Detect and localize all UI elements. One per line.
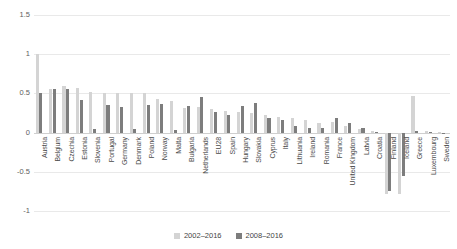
- bar: [331, 122, 334, 133]
- y-axis-tick-label: 1: [0, 50, 30, 58]
- bar: [80, 100, 83, 133]
- bar: [375, 132, 378, 133]
- x-axis-label-slot: Slovakia: [249, 135, 262, 209]
- x-axis-label-slot: Germany: [115, 135, 128, 209]
- bar: [291, 118, 294, 132]
- legend-swatch: [236, 233, 242, 239]
- bar: [250, 113, 253, 133]
- x-axis-label-slot: Croatia: [369, 135, 382, 209]
- bar: [214, 112, 217, 132]
- bar: [130, 93, 133, 132]
- legend-item[interactable]: 2002–2016: [174, 231, 222, 240]
- y-axis-labels: 1.510.50-0.5-1: [0, 15, 34, 211]
- bar: [36, 54, 39, 132]
- bar: [76, 88, 79, 133]
- legend-label: 2002–2016: [184, 231, 222, 240]
- bar: [183, 108, 186, 133]
- bar: [170, 101, 173, 132]
- x-axis-labels: AustriaBelgiumCzechiaEstoniaSloveniaPort…: [34, 135, 450, 209]
- x-axis-label-slot: Bulgaria: [182, 135, 195, 209]
- x-axis-label-slot: Norway: [155, 135, 168, 209]
- bar: [237, 112, 240, 132]
- bar: [277, 117, 280, 133]
- bar: [53, 89, 56, 132]
- bar: [344, 126, 347, 133]
- bar: [304, 120, 307, 133]
- x-axis-label-slot: Slovenia: [88, 135, 101, 209]
- bar: [49, 89, 52, 133]
- bar: [227, 115, 230, 133]
- x-axis-tick-label: Sweden: [443, 137, 450, 162]
- y-axis-tick-label: -1: [0, 207, 30, 215]
- bar: [66, 89, 69, 133]
- y-axis-tick-label: 0.5: [0, 89, 30, 97]
- y-axis-tick-label: -0.5: [0, 168, 30, 176]
- bar: [411, 96, 414, 133]
- bar: [116, 93, 119, 133]
- x-axis-label-slot: France: [329, 135, 342, 209]
- bar: [438, 132, 441, 133]
- gridline: [34, 211, 450, 212]
- legend-item[interactable]: 2008–2016: [236, 231, 284, 240]
- y-axis-tick-label: 0: [0, 129, 30, 137]
- x-axis-label-slot: Hungary: [235, 135, 248, 209]
- bar: [160, 104, 163, 132]
- bar: [308, 128, 311, 133]
- bar: [267, 118, 270, 132]
- y-axis-tick-label: 1.5: [0, 11, 30, 19]
- x-axis-label-slot: Luxembourg: [423, 135, 436, 209]
- bar: [120, 107, 123, 133]
- x-axis-label-slot: Finland: [383, 135, 396, 209]
- x-axis-label-slot: Netherlands: [195, 135, 208, 209]
- bar: [133, 129, 136, 132]
- x-axis-label-slot: Estonia: [74, 135, 87, 209]
- bar: [415, 131, 418, 133]
- chart-legend: 2002–20162008–2016: [0, 231, 457, 240]
- bar: [174, 130, 177, 132]
- x-axis-label-slot: Italy: [276, 135, 289, 209]
- bar: [335, 118, 338, 133]
- bar: [156, 99, 159, 133]
- x-axis-label-slot: Austria: [34, 135, 47, 209]
- bar: [264, 115, 267, 132]
- bar: [147, 105, 150, 132]
- x-axis-label-slot: Czechia: [61, 135, 74, 209]
- bar: [241, 106, 244, 133]
- bar: [210, 109, 213, 133]
- bar: [143, 93, 146, 132]
- bar: [254, 103, 257, 133]
- x-axis-label-slot: United Kingdom: [343, 135, 356, 209]
- bar: [197, 107, 200, 133]
- x-axis-label-slot: Greece: [410, 135, 423, 209]
- x-axis-label-slot: Denmark: [128, 135, 141, 209]
- x-axis-label-slot: Portugal: [101, 135, 114, 209]
- bar: [187, 106, 190, 133]
- x-axis-label-slot: Poland: [141, 135, 154, 209]
- x-axis-label-slot: Iceland: [396, 135, 409, 209]
- x-axis-label-slot: Belgium: [47, 135, 60, 209]
- x-axis-label-slot: Malta: [168, 135, 181, 209]
- bar: [294, 126, 297, 132]
- bar: [361, 128, 364, 133]
- legend-swatch: [174, 233, 180, 239]
- bar: [224, 111, 227, 132]
- bar: [317, 123, 320, 132]
- bar: [429, 132, 432, 133]
- bar: [62, 86, 65, 133]
- bar: [425, 131, 428, 133]
- x-axis-label-slot: Sweden: [437, 135, 450, 209]
- bar: [200, 97, 203, 133]
- bar-chart: 1.510.50-0.5-1 AustriaBelgiumCzechiaEsto…: [0, 0, 457, 249]
- bar: [371, 131, 374, 133]
- x-axis-label-slot: EU28: [208, 135, 221, 209]
- bar: [93, 129, 96, 133]
- bar: [442, 133, 445, 134]
- x-axis-label-slot: Spain: [222, 135, 235, 209]
- bar: [106, 105, 109, 132]
- x-axis-label-slot: Romania: [316, 135, 329, 209]
- bar: [358, 129, 361, 133]
- bar: [89, 92, 92, 133]
- bar: [103, 93, 106, 133]
- bar: [321, 128, 324, 133]
- x-axis-label-slot: Cyprus: [262, 135, 275, 209]
